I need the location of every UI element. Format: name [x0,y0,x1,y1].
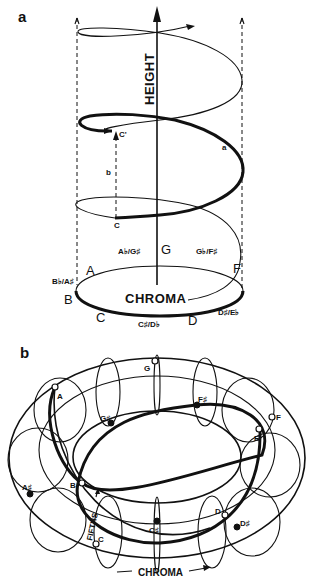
node-ds-label: D♯ [240,519,250,528]
torus-chroma-label: CHROMA [138,567,183,578]
height-axis-arrowhead-icon [153,6,161,22]
node-b-marker [79,480,85,486]
node-a-label: A [57,392,63,401]
node-cs-label: C♯ [149,526,159,535]
pitch-helix-torus-figure: a HEIGHT a C' b C A A♭/G♯ G G♭/F♯ [0,0,310,580]
node-gs-label: G♯ [100,414,110,423]
note-g: G [161,242,171,257]
note-gb-fs: G♭/F♯ [196,247,217,256]
node-c-label: C [98,535,104,544]
torus-meridian [34,378,86,442]
note-ds-eb: D♯/E♭ [218,308,239,317]
node-e-label: E [254,434,260,443]
chroma-axis-label: CHROMA [125,291,187,306]
helix-arrowhead-icon [186,24,195,30]
node-f-label: F [276,413,281,422]
note-f: F [233,261,241,276]
node-fs-label: F♯ [198,395,207,404]
height-axis-label: HEIGHT [142,53,157,105]
torus-helix-segment [54,387,210,535]
node-as-label: A♯ [22,483,32,492]
node-d-marker [222,512,228,518]
note-b: B [64,292,73,307]
helix-path-label: a [222,143,227,152]
panel-a-helix: a HEIGHT a C' b C A A♭/G♯ G G♭/F♯ [18,6,244,329]
note-bb-as: B♭/A♯ [52,277,74,286]
chroma-arrow-right-line [189,568,206,571]
note-cs-db: C♯/D♭ [138,320,160,329]
note-c: C [96,310,105,325]
note-ab-gs: A♭/G♯ [118,247,140,256]
torus-meridian [222,378,274,442]
note-a: A [86,263,95,278]
helix-upper-return [105,120,160,131]
torus-meridian [193,358,217,426]
node-a-marker [52,384,58,390]
panel-b-torus: b G A [8,344,305,578]
node-b-label: B [70,481,76,490]
helix-mid-arrowhead-icon [104,128,112,134]
node-cs-marker [154,518,160,524]
node-g-label: G [144,364,150,373]
node-g-marker [152,358,158,364]
chroma-arrow-left-line [117,571,132,572]
octave-path-label: b [106,168,111,177]
chroma-circle-back [76,266,243,291]
point-c-label: C [114,221,120,230]
node-e-marker [256,426,262,432]
point-c-prime-label: C' [119,130,127,139]
note-d: D [188,313,197,328]
panel-b-label: b [20,344,29,361]
panel-a-label: a [18,8,27,25]
node-f-marker [269,414,275,420]
torus-meridian [154,497,160,573]
node-d-label: D [215,507,221,516]
helix-upper-turn [78,26,242,120]
